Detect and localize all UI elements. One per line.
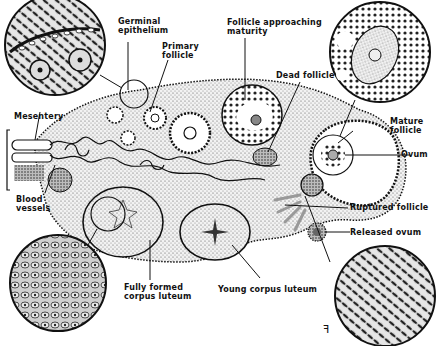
ovary-illustration — [0, 0, 439, 346]
label-mature-follicle: Mature follicle — [390, 117, 423, 135]
label-ruptured-follicle: Ruptured follicle — [350, 203, 429, 212]
label-mesentery: Mesentery — [14, 112, 63, 121]
label-follicle-approaching-maturity: Follicle approaching maturity — [227, 18, 322, 36]
germinal-epithelium-inset — [5, 0, 122, 95]
label-blood-vessels: Blood vessels — [16, 195, 51, 213]
growing-follicle — [170, 113, 210, 153]
label-germinal-epithelium: Germinal epithelium — [118, 17, 168, 35]
label-young-corpus-luteum: Young corpus luteum — [218, 285, 317, 294]
ovarian-cluster — [48, 168, 72, 192]
label-released-ovum: Released ovum — [350, 228, 421, 237]
released-ovum — [308, 223, 326, 241]
dead-follicle — [253, 148, 277, 166]
ovary-diagram: Germinal epithelium Primary follicle Fol… — [0, 0, 439, 346]
follicle-approaching-maturity — [222, 85, 282, 145]
label-fully-formed-corpus-luteum: Fully formed corpus luteum — [124, 283, 191, 301]
label-ovum: Ovum — [401, 150, 428, 159]
young-corpus-luteum — [180, 204, 250, 260]
label-primary-follicle: Primary follicle — [162, 42, 199, 60]
artist-signature: ꟻ — [323, 325, 330, 334]
label-dead-follicle: Dead follicle — [276, 71, 335, 80]
